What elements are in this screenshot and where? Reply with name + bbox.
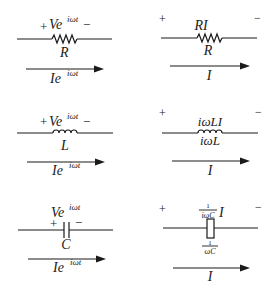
element-label: R bbox=[203, 43, 213, 58]
voltage-label: RI bbox=[193, 18, 209, 33]
voltage-label: Ve iωt + − bbox=[50, 202, 82, 231]
current-arrowhead bbox=[95, 159, 105, 166]
panel-inductor-phasor: + − iωLI iωL I bbox=[159, 105, 262, 178]
minus-sign: − bbox=[255, 200, 262, 214]
current-exponent: iωt bbox=[69, 160, 81, 170]
current-base: Ie bbox=[49, 71, 61, 86]
element-label: L bbox=[60, 138, 69, 153]
inductor-coil bbox=[53, 130, 77, 133]
minus-sign: − bbox=[83, 17, 90, 32]
panel-capacitor-phasor: + − 1 iωC I 1 ωC I bbox=[159, 200, 262, 284]
impedance-box bbox=[207, 219, 214, 238]
plus-sign: + bbox=[50, 216, 57, 231]
current-exponent: iωt bbox=[67, 68, 79, 78]
minus-sign: − bbox=[254, 11, 261, 25]
element-label: R bbox=[59, 45, 69, 60]
voltage-label: 1 iωC I bbox=[199, 202, 225, 220]
voltage-suffix: I bbox=[218, 205, 225, 220]
current-label: I bbox=[206, 68, 213, 83]
voltage-base: Ve bbox=[49, 17, 62, 32]
current-exponent: iωt bbox=[70, 257, 82, 267]
resistor-symbol bbox=[52, 35, 77, 43]
current-arrowhead bbox=[240, 158, 250, 165]
minus-sign: − bbox=[255, 105, 262, 119]
current-arrowhead bbox=[96, 256, 106, 263]
circuit-diagram: + Ve iωt − R Ie iωt + − RI R I + Ve iω bbox=[0, 0, 274, 289]
panel-inductor-time: + Ve iωt − L Ie iωt bbox=[17, 111, 113, 178]
current-label: Ie iωt bbox=[51, 160, 81, 178]
resistor-symbol bbox=[197, 34, 222, 42]
current-base: Ie bbox=[52, 260, 64, 275]
minus-sign: − bbox=[83, 114, 90, 129]
element-label: iωL bbox=[200, 133, 220, 148]
current-label: I bbox=[207, 269, 214, 284]
fraction-numerator: 1 bbox=[206, 202, 210, 210]
voltage-label: iωLI bbox=[198, 114, 223, 129]
minus-sign: − bbox=[75, 215, 82, 230]
panel-resistor-phasor: + − RI R I bbox=[159, 11, 261, 83]
voltage-label: + Ve iωt − bbox=[40, 111, 90, 129]
current-arrowhead bbox=[94, 66, 104, 73]
element-label: C bbox=[61, 237, 71, 252]
plus-sign: + bbox=[159, 106, 166, 120]
plus-sign: + bbox=[40, 114, 47, 129]
current-label: Ie iωt bbox=[52, 257, 82, 275]
current-arrowhead bbox=[240, 63, 250, 70]
voltage-exponent: iωt bbox=[67, 111, 79, 121]
voltage-exponent: iωt bbox=[67, 14, 79, 24]
current-arrowhead bbox=[240, 265, 250, 272]
plus-sign: + bbox=[159, 12, 166, 26]
current-label: Ie iωt bbox=[49, 68, 79, 86]
voltage-label: + Ve iωt − bbox=[40, 14, 90, 34]
current-base: Ie bbox=[51, 163, 63, 178]
panel-resistor-time: + Ve iωt − R Ie iωt bbox=[17, 14, 112, 86]
plus-sign: + bbox=[40, 19, 47, 34]
voltage-base: Ve bbox=[49, 114, 62, 129]
fraction-denominator: ωC bbox=[205, 247, 217, 256]
plus-sign: + bbox=[159, 202, 166, 216]
voltage-exponent: iωt bbox=[69, 202, 81, 212]
current-label: I bbox=[207, 163, 214, 178]
panel-capacitor-time: Ve iωt + − C Ie iωt bbox=[18, 202, 113, 275]
element-label: 1 ωC bbox=[202, 239, 218, 256]
